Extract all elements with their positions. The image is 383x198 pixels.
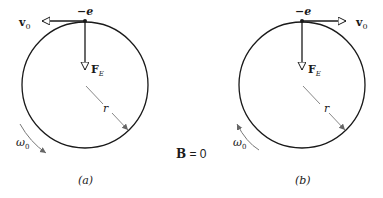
radius-line [86, 86, 103, 104]
panel-caption: (b) [295, 174, 311, 187]
force-label: FE [308, 63, 321, 78]
radius-arrow [112, 113, 128, 130]
radius-label: r [103, 102, 109, 115]
charge-label: −e [77, 5, 93, 18]
charge-label: −e [295, 5, 311, 18]
velocity-label: v0 [18, 16, 31, 31]
radius-label: r [324, 102, 330, 115]
velocity-label: v0 [355, 16, 368, 31]
magnetic-field-label: B = 0 [176, 147, 207, 161]
omega-label: ω0 [16, 136, 29, 151]
panel-b: −e v0 FE r ω0 (b) [233, 5, 368, 187]
radius-line [303, 86, 320, 104]
panel-a: −e v0 FE r ω0 (a) [16, 5, 148, 187]
radius-arrow [329, 113, 345, 130]
diagram-canvas: −e v0 FE r ω0 (a) B = 0 −e v0 FE r ω0 (b… [0, 0, 383, 198]
omega-label: ω0 [233, 136, 246, 151]
force-label: FE [91, 63, 104, 78]
panel-caption: (a) [78, 174, 93, 187]
